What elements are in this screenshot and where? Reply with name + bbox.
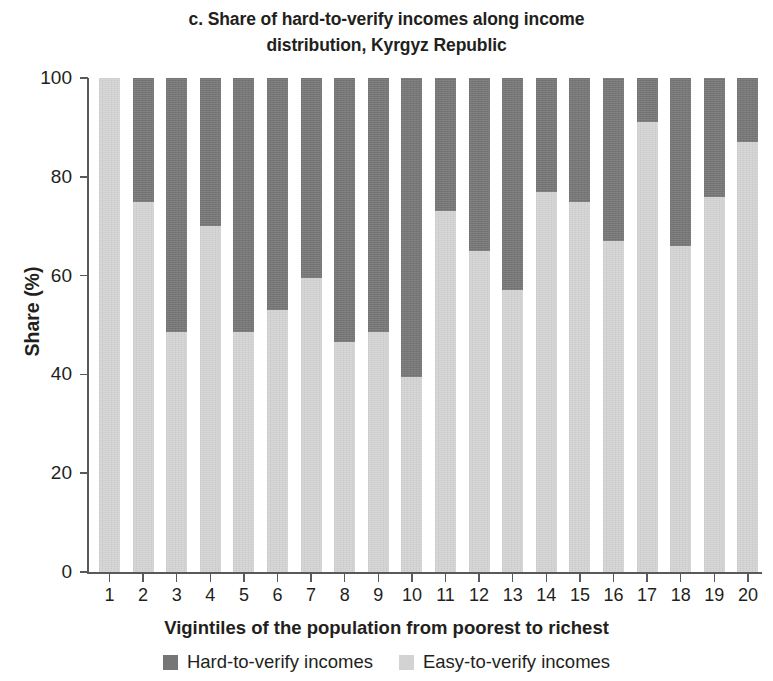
x-tick-label-19: 19: [697, 586, 731, 604]
y-tick-40: [80, 374, 88, 376]
bar-group-vigintile-8[interactable]: [334, 78, 355, 572]
x-tick-5: [243, 573, 245, 582]
bar-segment-easy-to-verify-13[interactable]: [502, 290, 523, 572]
bar-segment-easy-to-verify-16[interactable]: [603, 241, 624, 572]
x-tick-label-5: 5: [227, 586, 261, 604]
bar-segment-hard-to-verify-11[interactable]: [435, 78, 456, 211]
bar-group-vigintile-2[interactable]: [133, 78, 154, 572]
bar-segment-easy-to-verify-18[interactable]: [670, 246, 691, 572]
bar-segment-hard-to-verify-10[interactable]: [401, 78, 422, 377]
bar-segment-hard-to-verify-19[interactable]: [704, 78, 725, 197]
x-tick-6: [277, 573, 279, 582]
x-tick-2: [142, 573, 144, 582]
bar-segment-hard-to-verify-6[interactable]: [267, 78, 288, 310]
bar-group-vigintile-7[interactable]: [301, 78, 322, 572]
bar-segment-easy-to-verify-8[interactable]: [334, 342, 355, 572]
bar-segment-hard-to-verify-2[interactable]: [133, 78, 154, 202]
bar-segment-easy-to-verify-12[interactable]: [469, 251, 490, 572]
x-tick-16: [613, 573, 615, 582]
legend-label-hard-to-verify: Hard-to-verify incomes: [187, 651, 373, 673]
bar-segment-hard-to-verify-20[interactable]: [737, 78, 758, 142]
x-tick-label-15: 15: [563, 586, 597, 604]
bar-segment-easy-to-verify-2[interactable]: [133, 202, 154, 573]
x-tick-label-13: 13: [496, 586, 530, 604]
bar-segment-hard-to-verify-3[interactable]: [166, 78, 187, 332]
bar-segment-easy-to-verify-14[interactable]: [536, 192, 557, 572]
x-tick-label-10: 10: [395, 586, 429, 604]
bar-segment-easy-to-verify-10[interactable]: [401, 377, 422, 572]
chart-title-line-2: distribution, Kyrgyz Republic: [0, 32, 773, 58]
x-tick-11: [445, 573, 447, 582]
bar-segment-easy-to-verify-11[interactable]: [435, 211, 456, 572]
bar-segment-easy-to-verify-9[interactable]: [368, 332, 389, 572]
x-tick-label-1: 1: [93, 586, 127, 604]
bar-segment-easy-to-verify-19[interactable]: [704, 197, 725, 572]
x-tick-17: [646, 573, 648, 582]
legend-label-easy-to-verify: Easy-to-verify incomes: [423, 651, 610, 673]
x-tick-label-20: 20: [731, 586, 765, 604]
x-tick-14: [546, 573, 548, 582]
y-tick-20: [80, 472, 88, 474]
x-tick-1: [109, 573, 111, 582]
bar-segment-easy-to-verify-1[interactable]: [99, 78, 120, 572]
y-tick-100: [80, 77, 88, 79]
bar-group-vigintile-12[interactable]: [469, 78, 490, 572]
x-tick-20: [747, 573, 749, 582]
bar-segment-hard-to-verify-13[interactable]: [502, 78, 523, 290]
x-tick-label-4: 4: [193, 586, 227, 604]
bar-segment-hard-to-verify-15[interactable]: [569, 78, 590, 202]
x-tick-19: [714, 573, 716, 582]
x-axis-line: [87, 572, 762, 574]
x-tick-label-17: 17: [630, 586, 664, 604]
bar-segment-easy-to-verify-7[interactable]: [301, 278, 322, 572]
bar-segment-hard-to-verify-14[interactable]: [536, 78, 557, 192]
y-axis-title: Share (%): [21, 192, 44, 432]
bar-segment-hard-to-verify-16[interactable]: [603, 78, 624, 241]
x-tick-label-6: 6: [261, 586, 295, 604]
bar-segment-hard-to-verify-12[interactable]: [469, 78, 490, 251]
bar-segment-easy-to-verify-15[interactable]: [569, 202, 590, 573]
bar-segment-easy-to-verify-5[interactable]: [233, 332, 254, 572]
x-tick-label-11: 11: [429, 586, 463, 604]
chart-legend: Hard-to-verify incomesEasy-to-verify inc…: [0, 651, 773, 673]
bar-group-vigintile-19[interactable]: [704, 78, 725, 572]
bar-group-vigintile-14[interactable]: [536, 78, 557, 572]
bar-group-vigintile-18[interactable]: [670, 78, 691, 572]
bar-segment-hard-to-verify-8[interactable]: [334, 78, 355, 342]
bar-group-vigintile-11[interactable]: [435, 78, 456, 572]
legend-item-hard-to-verify[interactable]: Hard-to-verify incomes: [163, 651, 373, 673]
bar-group-vigintile-13[interactable]: [502, 78, 523, 572]
bar-group-vigintile-20[interactable]: [737, 78, 758, 572]
x-tick-13: [512, 573, 514, 582]
bar-group-vigintile-10[interactable]: [401, 78, 422, 572]
bar-segment-hard-to-verify-5[interactable]: [233, 78, 254, 332]
bar-group-vigintile-5[interactable]: [233, 78, 254, 572]
bar-segment-easy-to-verify-6[interactable]: [267, 310, 288, 572]
x-tick-label-2: 2: [126, 586, 160, 604]
bar-segment-hard-to-verify-18[interactable]: [670, 78, 691, 246]
y-tick-80: [80, 176, 88, 178]
legend-item-easy-to-verify[interactable]: Easy-to-verify incomes: [399, 651, 610, 673]
bar-segment-hard-to-verify-7[interactable]: [301, 78, 322, 278]
bar-segment-hard-to-verify-4[interactable]: [200, 78, 221, 226]
bar-segment-hard-to-verify-9[interactable]: [368, 78, 389, 332]
y-tick-0: [80, 571, 88, 573]
bar-group-vigintile-9[interactable]: [368, 78, 389, 572]
x-tick-10: [411, 573, 413, 582]
bar-segment-hard-to-verify-17[interactable]: [637, 78, 658, 122]
bar-group-vigintile-15[interactable]: [569, 78, 590, 572]
bar-group-vigintile-3[interactable]: [166, 78, 187, 572]
bar-segment-easy-to-verify-20[interactable]: [737, 142, 758, 572]
bar-group-vigintile-16[interactable]: [603, 78, 624, 572]
x-tick-18: [680, 573, 682, 582]
bar-group-vigintile-4[interactable]: [200, 78, 221, 572]
bar-group-vigintile-17[interactable]: [637, 78, 658, 572]
plot-area: [88, 78, 760, 572]
bar-group-vigintile-6[interactable]: [267, 78, 288, 572]
x-tick-3: [176, 573, 178, 582]
bar-segment-easy-to-verify-3[interactable]: [166, 332, 187, 572]
x-tick-label-14: 14: [529, 586, 563, 604]
bar-group-vigintile-1[interactable]: [99, 78, 120, 572]
bar-segment-easy-to-verify-4[interactable]: [200, 226, 221, 572]
bar-segment-easy-to-verify-17[interactable]: [637, 122, 658, 572]
